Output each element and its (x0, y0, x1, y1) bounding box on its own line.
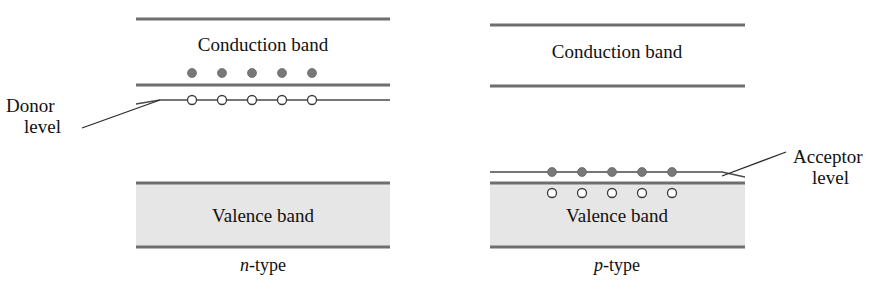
electron-dot (278, 69, 287, 78)
hole-circle (668, 189, 677, 198)
hole-circle (548, 189, 557, 198)
electron-dot (578, 168, 587, 177)
panel-type-label-p-suffix: -type (603, 255, 640, 275)
electron-dot (248, 69, 257, 78)
electron-dot (638, 168, 647, 177)
hole-circle (608, 189, 617, 198)
donor-level-line (136, 100, 390, 104)
band-diagram-canvas: Conduction band (0, 0, 875, 301)
hole-circle (638, 189, 647, 198)
conduction-band-label-p: Conduction band (552, 41, 683, 62)
hole-circle (308, 96, 317, 105)
hole-circle (278, 96, 287, 105)
valence-band-label-n: Valence band (212, 205, 314, 226)
hole-circle (578, 189, 587, 198)
acceptor-level-leader-line (722, 152, 786, 176)
donor-level-label-line2: level (24, 116, 61, 137)
panel-type-label-n-prefix: n (240, 255, 249, 275)
acceptor-level-label-line2: level (812, 167, 849, 188)
valence-band-label-p: Valence band (566, 205, 668, 226)
electron-dot (668, 168, 677, 177)
electron-dot (608, 168, 617, 177)
hole-circle (188, 96, 197, 105)
hole-circle (248, 96, 257, 105)
electron-dot (308, 69, 317, 78)
panel-type-label-p-prefix: p (592, 255, 603, 275)
conduction-electrons-n (188, 69, 317, 78)
donor-level-leader-line (82, 100, 160, 128)
acceptor-level-line (490, 172, 745, 177)
panel-type-label-n-suffix: -type (249, 255, 286, 275)
panel-p-type: Conduction band (490, 25, 863, 275)
conduction-band-label-n: Conduction band (198, 34, 329, 55)
electron-dot (188, 69, 197, 78)
donor-level-label-line1: Donor (6, 95, 55, 116)
band-diagram-figure: Conduction band (0, 0, 875, 301)
panel-type-label-p: p-type (592, 255, 640, 275)
acceptor-level-label-line1: Acceptor (793, 146, 863, 167)
panel-type-label-n: n-type (240, 255, 286, 275)
electron-dot (218, 69, 227, 78)
electron-dot (548, 168, 557, 177)
panel-n-type: Conduction band (6, 19, 390, 275)
hole-circle (218, 96, 227, 105)
